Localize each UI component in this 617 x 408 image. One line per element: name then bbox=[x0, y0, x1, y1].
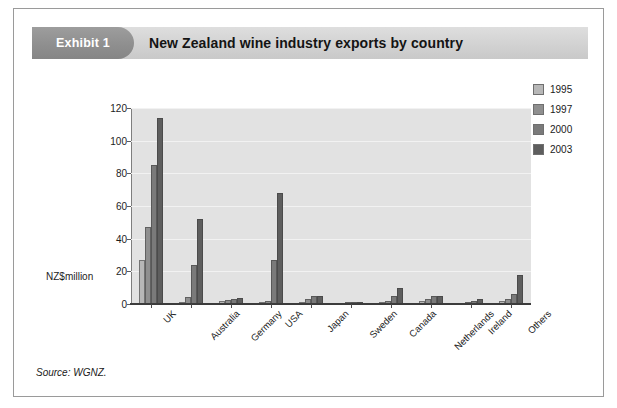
bars-layer bbox=[131, 108, 531, 304]
bar-group bbox=[371, 108, 411, 304]
y-tick-label: 80 bbox=[116, 168, 127, 179]
bar-group bbox=[291, 108, 331, 304]
bar-group bbox=[411, 108, 451, 304]
bar-2003-australia bbox=[197, 219, 203, 304]
legend-item-1997[interactable]: 1997 bbox=[533, 99, 603, 119]
plot-wrap: 020406080100120 bbox=[131, 108, 531, 304]
bar-2003-uk bbox=[157, 118, 163, 304]
bar-group bbox=[131, 108, 171, 304]
x-tick-label: UK bbox=[161, 308, 178, 325]
x-tick-label: Japan bbox=[325, 308, 351, 334]
x-tick-label: Sweden bbox=[367, 308, 399, 340]
y-tick-label: 40 bbox=[116, 233, 127, 244]
exhibit-badge: Exhibit 1 bbox=[32, 27, 134, 59]
chart-legend: 1995199720002003 bbox=[533, 79, 603, 159]
y-tick-label: 100 bbox=[110, 135, 127, 146]
bar-group bbox=[491, 108, 531, 304]
legend-label: 2003 bbox=[550, 144, 572, 155]
x-tick-label: Canada bbox=[407, 308, 438, 339]
y-axis-title: NZ$million bbox=[46, 271, 93, 282]
bar-2003-others bbox=[517, 275, 523, 304]
y-tick-label: 20 bbox=[116, 266, 127, 277]
legend-swatch-icon bbox=[533, 144, 544, 155]
x-tick-label: Germany bbox=[248, 308, 283, 343]
bar-2003-canada bbox=[397, 288, 403, 304]
legend-label: 2000 bbox=[550, 124, 572, 135]
source-note: Source: WGNZ. bbox=[36, 367, 107, 378]
legend-label: 1995 bbox=[550, 84, 572, 95]
legend-swatch-icon bbox=[533, 104, 544, 115]
bar-2003-usa bbox=[277, 193, 283, 304]
page-title: New Zealand wine industry exports by cou… bbox=[149, 27, 463, 59]
x-axis-labels: UKAustraliaGermanyUSAJapanSwedenCanadaNe… bbox=[131, 304, 531, 360]
x-tick-label: Australia bbox=[208, 308, 242, 342]
bar-group bbox=[251, 108, 291, 304]
legend-item-1995[interactable]: 1995 bbox=[533, 79, 603, 99]
legend-item-2003[interactable]: 2003 bbox=[533, 139, 603, 159]
x-tick-label: USA bbox=[283, 308, 305, 330]
x-tick-label: Others bbox=[525, 308, 553, 336]
y-tick-label: 120 bbox=[110, 103, 127, 114]
legend-item-2000[interactable]: 2000 bbox=[533, 119, 603, 139]
legend-swatch-icon bbox=[533, 84, 544, 95]
legend-label: 1997 bbox=[550, 104, 572, 115]
exhibit-header: Exhibit 1 New Zealand wine industry expo… bbox=[32, 27, 588, 59]
legend-swatch-icon bbox=[533, 124, 544, 135]
bar-group bbox=[211, 108, 251, 304]
bar-chart: NZ$million 020406080100120 UKAustraliaGe… bbox=[32, 85, 588, 360]
bar-group bbox=[171, 108, 211, 304]
y-tick-label: 60 bbox=[116, 201, 127, 212]
bar-group bbox=[331, 108, 371, 304]
exhibit-card: Exhibit 1 New Zealand wine industry expo… bbox=[13, 8, 604, 397]
bar-group bbox=[451, 108, 491, 304]
